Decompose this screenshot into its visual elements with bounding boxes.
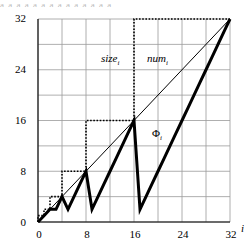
x-tick-8: 8 [75,228,99,240]
series-label-size: sizei [101,52,119,67]
series-label-phi: Φi [152,127,162,142]
x-tick-24: 24 [171,228,195,240]
y-tick-24: 24 [2,63,26,75]
series-label-num-subscript: i [166,59,168,67]
series-label-size-subscript: i [118,59,120,67]
series-label-size-text: size [101,52,118,64]
series-label-num: numi [147,52,168,67]
y-tick-16: 16 [2,114,26,126]
y-tick-32: 32 [2,12,26,24]
x-tick-16: 16 [123,228,147,240]
x-tick-0: 0 [27,228,51,240]
x-tick-32: 32 [219,228,243,240]
chart-figure: a a a a a a a a a a a a a a 0 8 16 24 32… [0,0,252,252]
y-tick-0: 0 [2,216,26,228]
x-axis-name: i [241,222,244,234]
series-label-phi-text: Φ [152,127,160,139]
series-label-num-text: num [147,52,166,64]
series-label-phi-subscript: i [160,134,162,142]
plot-canvas [0,0,252,252]
y-tick-8: 8 [2,165,26,177]
